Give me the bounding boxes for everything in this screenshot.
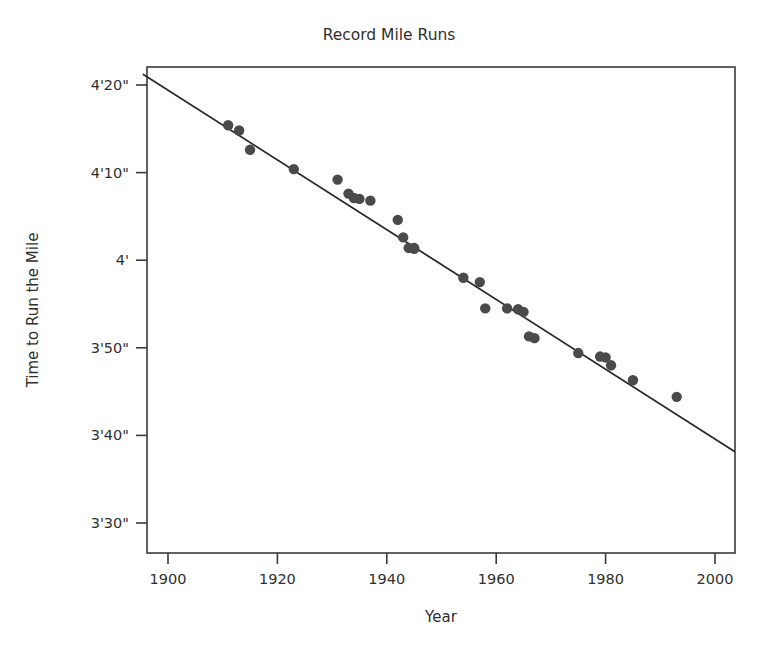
y-axis-title: Time to Run the Mile (24, 233, 42, 389)
record-mile-runs-chart: Record Mile Runs 4'20"4'10"4'3'50"3'40"3… (0, 0, 779, 653)
x-axis-ticks: 190019201940196019802000 (150, 553, 734, 587)
data-point (289, 164, 299, 174)
y-tick-label: 3'40" (91, 427, 129, 443)
plot-frame (147, 67, 735, 553)
data-point (606, 360, 616, 370)
x-tick-label: 1900 (150, 571, 187, 587)
data-point (332, 174, 342, 184)
figure-container: Record Mile Runs 4'20"4'10"4'3'50"3'40"3… (0, 0, 779, 653)
data-point (245, 145, 255, 155)
x-tick-label: 2000 (697, 571, 734, 587)
data-point (480, 303, 490, 313)
y-tick-label: 4'20" (91, 77, 129, 93)
data-point (234, 125, 244, 135)
y-tick-label: 4' (116, 252, 129, 268)
trend-line (143, 74, 734, 451)
data-point (354, 194, 364, 204)
x-axis-title: Year (424, 608, 458, 626)
data-point (672, 392, 682, 402)
y-tick-label: 3'30" (91, 515, 129, 531)
x-tick-label: 1960 (478, 571, 515, 587)
data-point (573, 348, 583, 358)
data-point (628, 375, 638, 385)
data-point (398, 232, 408, 242)
data-point (409, 244, 419, 254)
data-point (529, 333, 539, 343)
data-point (518, 307, 528, 317)
y-axis-ticks: 4'20"4'10"4'3'50"3'40"3'30" (91, 77, 147, 531)
x-tick-label: 1980 (587, 571, 624, 587)
data-point (475, 277, 485, 287)
data-point (458, 273, 468, 283)
x-tick-label: 1940 (368, 571, 405, 587)
y-tick-label: 4'10" (91, 165, 129, 181)
data-point (365, 195, 375, 205)
trend-line-group (143, 74, 734, 451)
data-point (502, 303, 512, 313)
scatter-points-group (223, 120, 682, 402)
y-tick-label: 3'50" (91, 340, 129, 356)
chart-title: Record Mile Runs (323, 26, 456, 44)
data-point (223, 120, 233, 130)
data-point (393, 215, 403, 225)
x-tick-label: 1920 (259, 571, 296, 587)
